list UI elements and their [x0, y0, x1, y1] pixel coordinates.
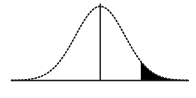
normal-curve-figure [0, 0, 196, 98]
figure-background [0, 0, 196, 98]
normal-curve-svg [0, 0, 196, 98]
